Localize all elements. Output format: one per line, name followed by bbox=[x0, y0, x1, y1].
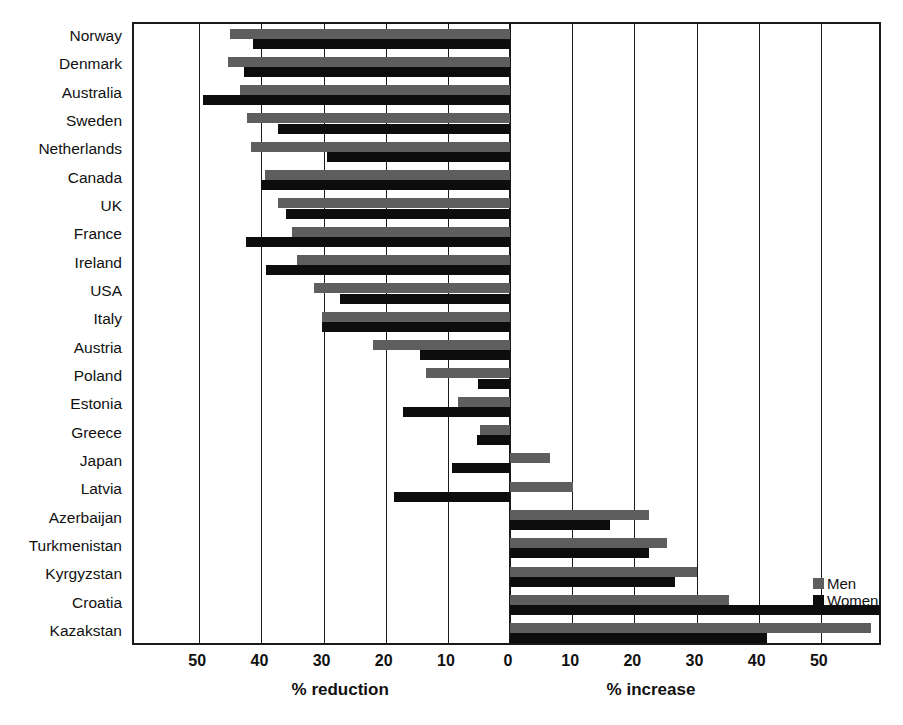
y-axis-label-austria: Austria bbox=[74, 340, 122, 356]
bar-group bbox=[134, 420, 879, 448]
bar-women bbox=[394, 492, 510, 502]
bar-group bbox=[134, 307, 879, 335]
x-axis: 504030201001020304050% reduction% increa… bbox=[132, 645, 881, 725]
bar-women bbox=[510, 520, 610, 530]
bar-group bbox=[134, 137, 879, 165]
legend-label: Women bbox=[827, 593, 878, 608]
chart-figure: NorwayDenmarkAustraliaSwedenNetherlandsC… bbox=[0, 0, 903, 725]
bar-men bbox=[292, 227, 510, 237]
x-tick-label: 0 bbox=[504, 653, 513, 669]
bar-men bbox=[510, 538, 667, 548]
bar-group bbox=[134, 392, 879, 420]
bar-group bbox=[134, 619, 879, 647]
bar-men bbox=[373, 340, 510, 350]
bar-group bbox=[134, 449, 879, 477]
bar-men bbox=[240, 85, 510, 95]
legend-item-women: Women bbox=[813, 593, 878, 608]
bar-women bbox=[261, 180, 510, 190]
bar-group bbox=[134, 364, 879, 392]
bar-men bbox=[278, 198, 510, 208]
bar-men bbox=[247, 113, 511, 123]
bar-men bbox=[251, 142, 510, 152]
x-tick-label: 20 bbox=[375, 653, 393, 669]
bar-men bbox=[228, 57, 510, 67]
x-tick-label: 40 bbox=[251, 653, 269, 669]
bar-group bbox=[134, 222, 879, 250]
bar-women bbox=[340, 294, 510, 304]
legend-swatch-men-icon bbox=[813, 578, 824, 589]
y-axis-label-azerbaijan: Azerbaijan bbox=[49, 510, 122, 526]
x-axis-title-reduction: % reduction bbox=[292, 681, 389, 698]
bar-group bbox=[134, 166, 879, 194]
bar-women bbox=[452, 463, 510, 473]
bar-women bbox=[478, 379, 510, 389]
bar-men bbox=[230, 29, 510, 39]
bar-men bbox=[314, 283, 510, 293]
y-axis-label-sweden: Sweden bbox=[66, 113, 122, 129]
bar-group bbox=[134, 562, 879, 590]
bar-men bbox=[297, 255, 510, 265]
bar-group bbox=[134, 477, 879, 505]
y-axis-label-greece: Greece bbox=[71, 425, 122, 441]
bar-group bbox=[134, 534, 879, 562]
bar-women bbox=[253, 39, 510, 49]
y-axis-label-latvia: Latvia bbox=[81, 481, 122, 497]
y-axis-label-croatia: Croatia bbox=[72, 595, 122, 611]
y-axis-label-ireland: Ireland bbox=[75, 255, 122, 271]
y-axis-label-turkmenistan: Turkmenistan bbox=[29, 538, 122, 554]
bar-women bbox=[510, 633, 767, 643]
x-tick-label: 30 bbox=[686, 653, 704, 669]
bar-group bbox=[134, 24, 879, 52]
x-tick-label: 20 bbox=[623, 653, 641, 669]
bar-men bbox=[480, 425, 510, 435]
bar-women bbox=[286, 209, 510, 219]
plot-area bbox=[132, 22, 881, 645]
y-axis-label-netherlands: Netherlands bbox=[38, 141, 122, 157]
legend-label: Men bbox=[827, 576, 856, 591]
y-axis-label-denmark: Denmark bbox=[59, 56, 122, 72]
bar-women bbox=[403, 407, 510, 417]
bar-women bbox=[510, 577, 675, 587]
y-axis-label-poland: Poland bbox=[74, 368, 122, 384]
x-tick-label: 10 bbox=[437, 653, 455, 669]
bar-group bbox=[134, 590, 879, 618]
bar-women bbox=[244, 67, 510, 77]
bar-women bbox=[203, 95, 510, 105]
bar-women bbox=[327, 152, 510, 162]
y-axis-label-italy: Italy bbox=[94, 311, 122, 327]
bar-men bbox=[510, 595, 729, 605]
bar-group bbox=[134, 505, 879, 533]
y-axis-label-kazakstan: Kazakstan bbox=[50, 623, 122, 639]
bar-group bbox=[134, 194, 879, 222]
bar-women bbox=[246, 237, 510, 247]
x-tick-label: 50 bbox=[188, 653, 206, 669]
bar-men bbox=[510, 623, 871, 633]
y-axis-label-france: France bbox=[74, 226, 122, 242]
x-tick-label: 10 bbox=[561, 653, 579, 669]
bar-group bbox=[134, 81, 879, 109]
bar-group bbox=[134, 109, 879, 137]
bar-women bbox=[322, 322, 510, 332]
bar-men bbox=[510, 510, 649, 520]
bar-men bbox=[458, 397, 510, 407]
x-tick-label: 50 bbox=[810, 653, 828, 669]
x-tick-label: 30 bbox=[313, 653, 331, 669]
x-tick-label: 40 bbox=[748, 653, 766, 669]
y-axis-label-norway: Norway bbox=[69, 28, 122, 44]
bar-men bbox=[510, 482, 573, 492]
y-axis-label-canada: Canada bbox=[68, 170, 122, 186]
y-axis-label-japan: Japan bbox=[80, 453, 122, 469]
bar-group bbox=[134, 251, 879, 279]
bar-women bbox=[420, 350, 510, 360]
bar-women bbox=[278, 124, 510, 134]
bar-men bbox=[510, 453, 550, 463]
bar-women bbox=[510, 548, 649, 558]
bar-women bbox=[477, 435, 510, 445]
legend-swatch-women-icon bbox=[813, 595, 824, 606]
y-axis-label-kyrgyzstan: Kyrgyzstan bbox=[45, 566, 122, 582]
bar-men bbox=[426, 368, 510, 378]
x-axis-title-increase: % increase bbox=[607, 681, 696, 698]
bar-group bbox=[134, 336, 879, 364]
chart-legend: MenWomen bbox=[813, 576, 878, 610]
y-axis-category-labels: NorwayDenmarkAustraliaSwedenNetherlandsC… bbox=[0, 22, 126, 645]
